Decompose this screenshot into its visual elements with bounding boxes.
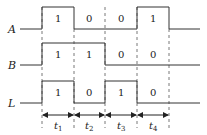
signal-l-value-t2: 0 (86, 87, 92, 98)
interval-guides (42, 7, 169, 128)
interval-label-t4: t4 (149, 120, 158, 133)
signal-l-value-t1: 1 (55, 87, 61, 98)
signal-b-value-t2: 1 (86, 49, 92, 60)
signal-b-waveform (20, 43, 200, 65)
signal-b-value-t3: 0 (118, 49, 124, 60)
signal-b-value-t1: 1 (55, 49, 61, 60)
signal-a-value-t2: 0 (86, 13, 92, 24)
timing-diagram: A 1 0 0 1 B 1 1 0 0 L 1 0 1 0 (0, 0, 207, 135)
signal-l-waveform (20, 81, 200, 103)
signal-a-value-t1: 1 (55, 13, 61, 24)
signal-a: A 1 0 0 1 (7, 7, 200, 36)
interval-labels: t1 t2 t3 t4 (54, 120, 158, 133)
interval-label-t2: t2 (85, 120, 94, 133)
signal-l-value-t3: 1 (118, 87, 124, 98)
signal-a-value-t4: 1 (150, 13, 156, 24)
interval-label-t3: t3 (117, 120, 126, 133)
signal-l-label: L (7, 97, 15, 110)
signal-l: L 1 0 1 0 (7, 81, 200, 110)
signal-a-waveform (20, 7, 200, 29)
signal-l-value-t4: 0 (150, 87, 156, 98)
signal-b: B 1 1 0 0 (7, 43, 200, 72)
interval-label-t1: t1 (54, 120, 63, 133)
signal-a-label: A (7, 23, 16, 36)
signal-b-label: B (7, 59, 16, 72)
signal-b-value-t4: 0 (150, 49, 156, 60)
signal-a-value-t3: 0 (118, 13, 124, 24)
